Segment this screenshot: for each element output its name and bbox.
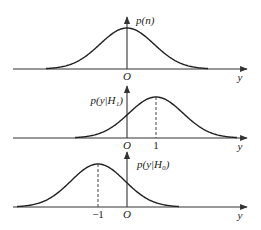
y-axis-label: p(n)	[135, 14, 155, 27]
origin-label: O	[123, 139, 131, 151]
panel-noise: p(n)Oy	[13, 14, 247, 83]
gaussian-hypothesis-diagram: p(n)Oyp(y|H₁)Oy1p(y|H₀)Oy−1	[0, 0, 261, 230]
panel-h0: p(y|H₀)Oy−1	[13, 152, 247, 221]
tick-label: −1	[92, 208, 104, 220]
y-axis-label: p(y|H₁)	[89, 94, 123, 107]
x-axis-label: y	[237, 140, 243, 152]
x-axis-label: y	[237, 209, 243, 221]
origin-label: O	[123, 70, 131, 82]
panel-h1: p(y|H₁)Oy1	[13, 86, 247, 152]
y-axis-label: p(y|H₀)	[136, 158, 170, 171]
tick-label: 1	[153, 139, 159, 151]
x-axis-label: y	[237, 71, 243, 83]
origin-label: O	[123, 208, 131, 220]
